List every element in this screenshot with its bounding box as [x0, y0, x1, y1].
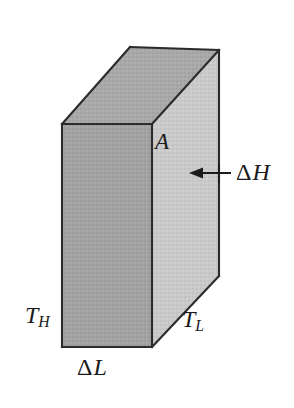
prism-diagram — [0, 0, 294, 408]
temperature-hot-label: TH — [25, 303, 50, 330]
area-label: A — [155, 130, 169, 153]
delta-symbol-l: Δ — [77, 354, 92, 380]
temperature-hot-variable: T — [25, 302, 38, 328]
temperature-cold-label: TL — [182, 307, 204, 334]
delta-symbol-h: Δ — [236, 159, 251, 185]
temperature-cold-subscript: L — [195, 317, 204, 334]
delta-h-label: ΔH — [236, 160, 270, 184]
delta-h-variable: H — [252, 159, 269, 185]
temperature-hot-subscript: H — [38, 313, 49, 330]
front-face — [62, 124, 152, 347]
temperature-cold-variable: T — [182, 306, 195, 332]
delta-l-variable: L — [93, 354, 106, 380]
delta-l-label: ΔL — [77, 355, 107, 379]
figure-canvas: A ΔH TH TL ΔL — [0, 0, 294, 408]
